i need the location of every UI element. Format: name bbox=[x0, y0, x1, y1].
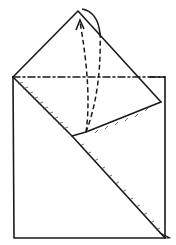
origami-fold-diagram bbox=[0, 0, 176, 245]
fold-arrow-up bbox=[76, 20, 100, 132]
rotation-arc bbox=[82, 9, 100, 34]
diagonal-folded-edge bbox=[13, 77, 165, 238]
inner-flap-edge bbox=[72, 102, 161, 136]
